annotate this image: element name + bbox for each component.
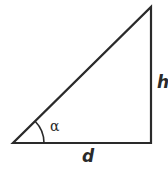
angle-label: α: [50, 118, 60, 134]
height-label: h: [157, 72, 168, 92]
right-triangle-diagram: α h d: [0, 0, 168, 171]
triangle-shape: [13, 7, 151, 143]
base-label: d: [82, 146, 95, 166]
angle-arc: [35, 121, 44, 143]
